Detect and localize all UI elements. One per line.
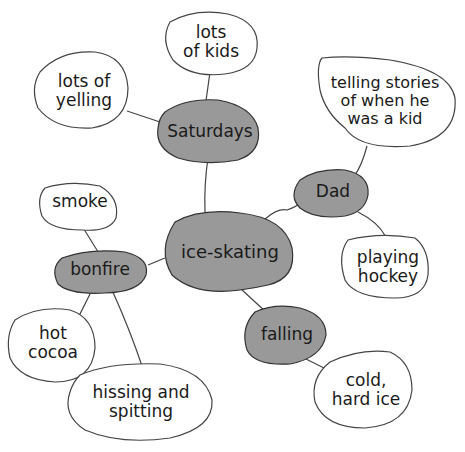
connector-dad-stories	[355, 146, 367, 175]
subtopic-dad-label: Dad	[316, 182, 350, 201]
connector-saturdays-yelling	[127, 111, 160, 122]
detail-smoke-line1: smoke	[52, 192, 108, 211]
detail-hissing-spitting-line1: hissing and	[93, 383, 190, 402]
detail-playing-hockey-line1: playing	[357, 248, 419, 267]
detail-telling-stories-line1: telling stories	[331, 74, 439, 92]
connector-center-falling	[240, 288, 266, 312]
connector-bonfire-hissing	[112, 290, 142, 366]
subtopic-bonfire-label: bonfire	[70, 260, 130, 279]
detail-hot-cocoa-line1: hot	[28, 324, 78, 343]
detail-smoke: smoke	[52, 192, 108, 211]
connector-dad-hockey	[358, 212, 386, 237]
detail-lots-of-yelling-line1: lots of	[56, 72, 112, 91]
detail-hissing-spitting-line2: spitting	[93, 402, 190, 421]
detail-lots-of-kids: lots of kids	[183, 23, 239, 61]
detail-playing-hockey: playing hockey	[357, 248, 419, 286]
detail-lots-of-kids-line2: of kids	[183, 42, 239, 61]
detail-cold-hard-ice-line1: cold,	[332, 371, 401, 390]
detail-telling-stories-line3: was a kid	[331, 110, 439, 128]
detail-telling-stories-line2: of when he	[331, 92, 439, 110]
subtopic-saturdays-label: Saturdays	[167, 122, 252, 141]
subtopic-falling-label: falling	[261, 325, 313, 344]
connector-center-saturdays	[205, 158, 208, 212]
detail-hot-cocoa-line2: cocoa	[28, 343, 78, 362]
detail-telling-stories: telling stories of when he was a kid	[331, 74, 439, 128]
detail-cold-hard-ice-line2: hard ice	[332, 390, 401, 409]
connector-center-bonfire	[148, 258, 165, 265]
detail-playing-hockey-line2: hockey	[357, 267, 419, 286]
detail-lots-of-yelling: lots of yelling	[56, 72, 112, 110]
detail-lots-of-kids-line1: lots	[183, 23, 239, 42]
detail-lots-of-yelling-line2: yelling	[56, 91, 112, 110]
detail-cold-hard-ice: cold, hard ice	[332, 371, 401, 409]
detail-hissing-spitting: hissing and spitting	[93, 383, 190, 421]
detail-hot-cocoa: hot cocoa	[28, 324, 78, 362]
center-topic-label: ice-skating	[181, 242, 279, 262]
